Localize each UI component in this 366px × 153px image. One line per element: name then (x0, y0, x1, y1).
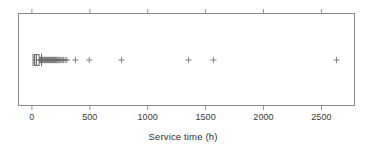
x-tick-label: 2000 (253, 112, 273, 123)
boxplot-figure: 05001000150020002500 Service time (h) (0, 0, 366, 153)
x-tick-label: 1000 (137, 112, 157, 123)
x-tick-label: 2500 (311, 112, 331, 123)
x-tick-label: 0 (29, 112, 34, 123)
x-axis-title: Service time (h) (0, 131, 366, 142)
x-tick-label: 1500 (195, 112, 215, 123)
x-tick-label: 500 (82, 112, 97, 123)
